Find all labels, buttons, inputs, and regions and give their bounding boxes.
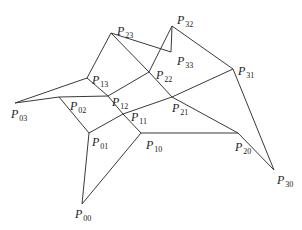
point-subscript: 03 xyxy=(19,114,27,123)
point-subscript: 00 xyxy=(83,214,91,223)
label-p12: P12 xyxy=(112,96,128,108)
label-p31: P31 xyxy=(238,65,254,77)
point-name: P xyxy=(92,73,99,87)
edge-p00-p01 xyxy=(82,133,89,204)
point-name: P xyxy=(11,107,18,121)
label-p30: P30 xyxy=(277,174,293,186)
point-subscript: 31 xyxy=(246,71,254,80)
point-subscript: 30 xyxy=(285,180,293,189)
label-p23: P23 xyxy=(117,25,133,37)
point-subscript: 33 xyxy=(185,61,193,70)
edge-p00-p10 xyxy=(82,133,141,204)
point-subscript: 20 xyxy=(243,147,251,156)
point-name: P xyxy=(177,13,184,27)
edge-p12-p22 xyxy=(108,72,149,96)
point-subscript: 13 xyxy=(100,80,108,89)
point-subscript: 11 xyxy=(139,117,147,126)
label-p11: P11 xyxy=(131,111,147,123)
point-name: P xyxy=(277,173,284,187)
point-name: P xyxy=(92,135,99,149)
point-name: P xyxy=(156,68,163,82)
point-subscript: 12 xyxy=(120,102,128,111)
point-subscript: 22 xyxy=(164,75,172,84)
point-name: P xyxy=(235,140,242,154)
label-p32: P32 xyxy=(177,14,193,26)
label-p01: P01 xyxy=(92,136,108,148)
label-p20: P20 xyxy=(235,141,251,153)
edge-p30-p31 xyxy=(233,69,274,170)
edge-p02-p03 xyxy=(15,97,59,103)
edge-p13-p23 xyxy=(87,33,111,78)
point-name: P xyxy=(70,99,77,113)
label-p13: P13 xyxy=(92,74,108,86)
label-p21: P21 xyxy=(172,102,188,114)
control-net-edges xyxy=(0,0,302,230)
edge-p01-p11 xyxy=(89,114,123,133)
label-p10: P10 xyxy=(146,139,162,151)
edge-p21-p31 xyxy=(172,69,233,97)
label-p33: P33 xyxy=(177,55,193,67)
point-subscript: 01 xyxy=(100,142,108,151)
point-subscript: 21 xyxy=(180,108,188,117)
edge-p02-p12 xyxy=(59,96,108,97)
label-p03: P03 xyxy=(11,108,27,120)
point-subscript: 02 xyxy=(78,106,86,115)
point-name: P xyxy=(177,54,184,68)
point-name: P xyxy=(75,207,82,221)
point-subscript: 10 xyxy=(154,145,162,154)
control-net-diagram: P00P01P02P03P10P11P12P13P20P21P22P23P30P… xyxy=(0,0,302,230)
point-name: P xyxy=(238,64,245,78)
point-name: P xyxy=(112,95,119,109)
point-name: P xyxy=(146,138,153,152)
label-p00: P00 xyxy=(75,208,91,220)
point-subscript: 32 xyxy=(185,20,193,29)
label-p22: P22 xyxy=(156,69,172,81)
edge-p32-p33 xyxy=(171,26,172,52)
point-name: P xyxy=(172,101,179,115)
point-name: P xyxy=(131,110,138,124)
point-name: P xyxy=(117,24,124,38)
label-p02: P02 xyxy=(70,100,86,112)
point-subscript: 23 xyxy=(125,31,133,40)
